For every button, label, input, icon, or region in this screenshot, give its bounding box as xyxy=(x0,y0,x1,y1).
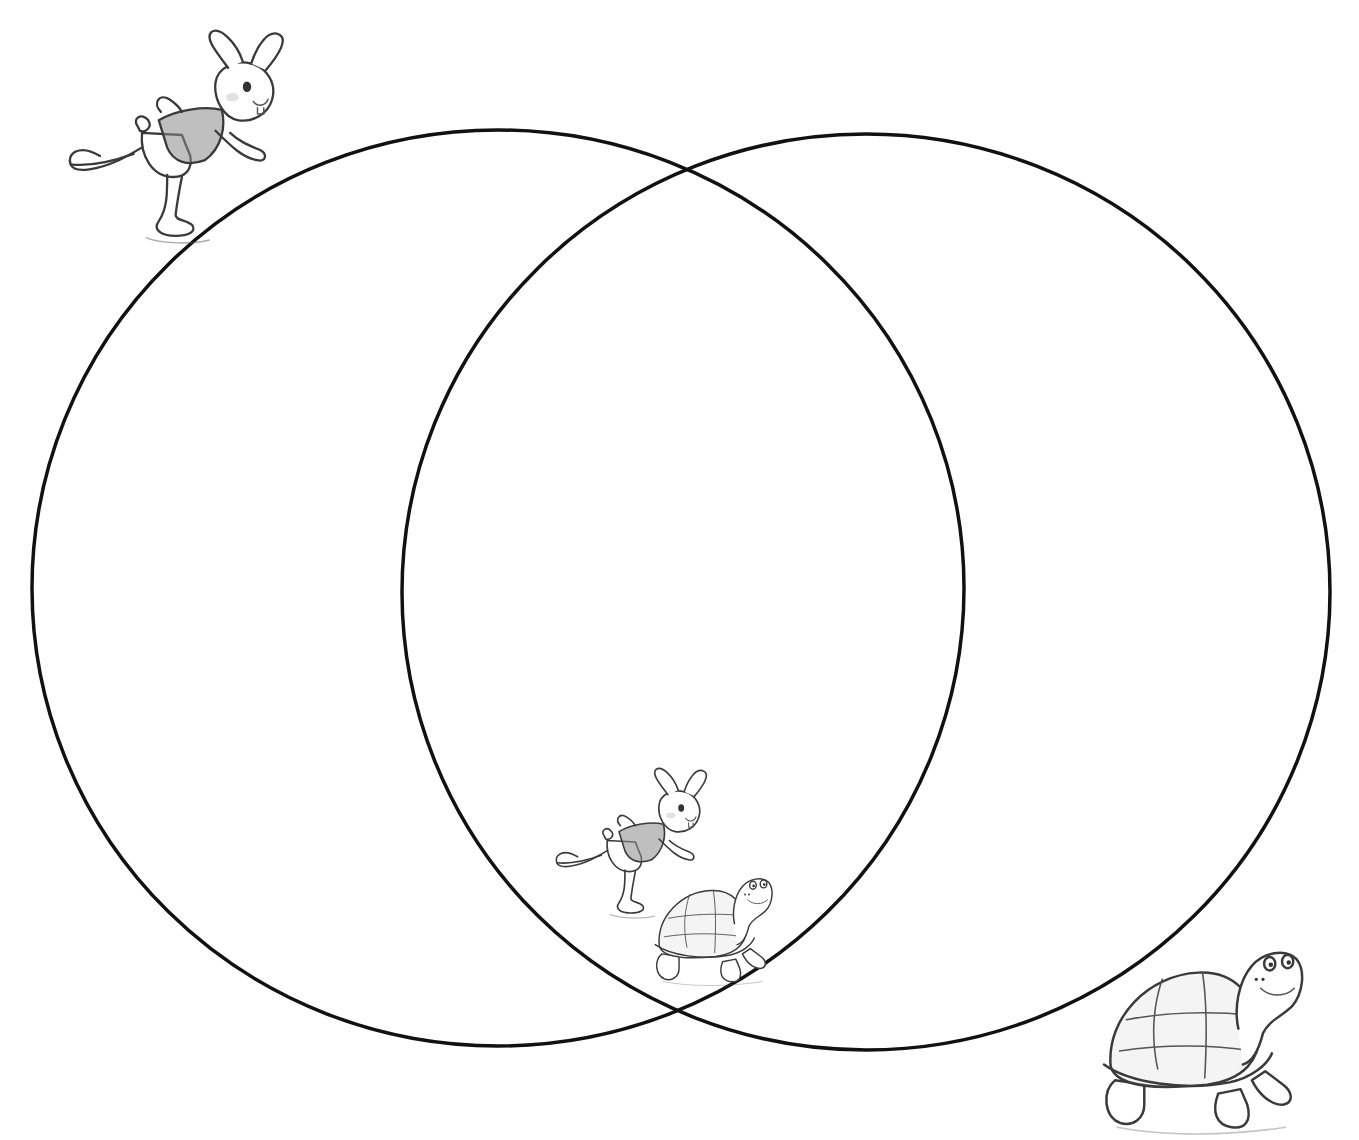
hare-icon xyxy=(70,31,283,243)
tortoise-icon xyxy=(1104,953,1302,1134)
venn-diagram xyxy=(0,0,1359,1140)
right-circle xyxy=(402,134,1330,1050)
left-circle xyxy=(32,130,964,1046)
hare-icon xyxy=(556,769,706,919)
